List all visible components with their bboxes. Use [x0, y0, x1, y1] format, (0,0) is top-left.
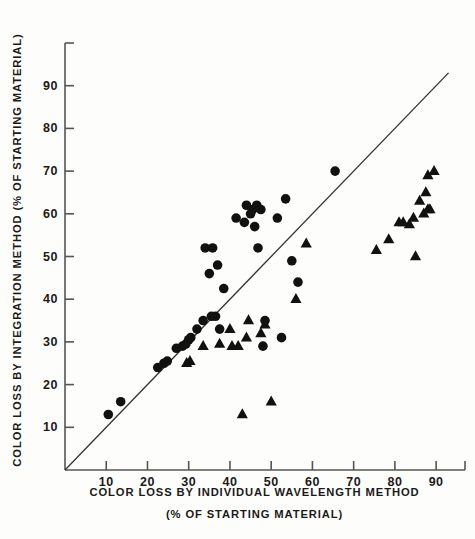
- y-tick-label: 90: [43, 79, 58, 93]
- data-point-circle: [256, 205, 266, 215]
- data-point-triangle: [410, 250, 421, 260]
- data-point-circle: [211, 311, 221, 321]
- figure-scatter-plot: COLOR LOSS BY INTEGRATION METHOD (% OF S…: [0, 0, 475, 539]
- y-tick-label: 40: [43, 292, 58, 306]
- data-point-triangle: [198, 340, 209, 350]
- data-point-circle: [213, 260, 223, 270]
- plot-canvas: [0, 0, 475, 539]
- data-point-circle: [330, 166, 340, 176]
- axes-group: [65, 43, 465, 470]
- data-point-triangle: [224, 323, 235, 333]
- data-point-triangle: [371, 244, 382, 254]
- series-circles: [103, 166, 339, 419]
- data-point-triangle: [301, 237, 312, 247]
- data-point-circle: [162, 356, 172, 366]
- data-point-circle: [215, 324, 225, 334]
- data-point-triangle: [420, 186, 431, 196]
- x-axis-title-line1: COLOR LOSS BY INDIVIDUAL WAVELENGTH METH…: [34, 486, 475, 498]
- data-point-triangle: [237, 408, 248, 418]
- y-tick-label: 20: [43, 378, 58, 392]
- data-point-circle: [198, 316, 208, 326]
- identity-line: [65, 73, 449, 470]
- y-tick-label: 10: [43, 420, 58, 434]
- data-point-circle: [253, 243, 263, 253]
- y-tick-label: 80: [43, 121, 58, 135]
- data-point-triangle: [428, 165, 439, 175]
- data-point-circle: [281, 194, 291, 204]
- data-point-triangle: [214, 338, 225, 348]
- data-point-circle: [208, 243, 218, 253]
- data-point-circle: [219, 284, 229, 294]
- data-points-group: [103, 165, 439, 419]
- data-point-circle: [293, 277, 303, 287]
- data-point-circle: [205, 269, 215, 279]
- data-point-circle: [277, 333, 287, 343]
- x-axis-title-line2: (% OF STARTING MATERIAL): [34, 508, 475, 520]
- data-point-circle: [250, 222, 260, 232]
- data-point-circle: [287, 256, 297, 266]
- data-point-circle: [231, 213, 241, 223]
- data-point-triangle: [383, 233, 394, 243]
- data-point-triangle: [408, 212, 419, 222]
- data-point-triangle: [255, 327, 266, 337]
- data-point-circle: [186, 333, 196, 343]
- data-point-circle: [273, 213, 283, 223]
- data-point-circle: [103, 410, 113, 420]
- data-point-triangle: [266, 395, 277, 405]
- data-point-triangle: [290, 293, 301, 303]
- data-point-circle: [116, 397, 126, 407]
- data-point-triangle: [241, 331, 252, 341]
- y-tick-label: 60: [43, 207, 58, 221]
- data-point-triangle: [243, 314, 254, 324]
- data-point-circle: [192, 324, 202, 334]
- data-point-circle: [258, 341, 268, 351]
- y-tick-label: 30: [43, 335, 58, 349]
- y-tick-label: 50: [43, 250, 58, 264]
- y-tick-label: 70: [43, 164, 58, 178]
- data-point-triangle: [414, 195, 425, 205]
- data-point-circle: [240, 218, 250, 228]
- series-triangles: [181, 165, 440, 418]
